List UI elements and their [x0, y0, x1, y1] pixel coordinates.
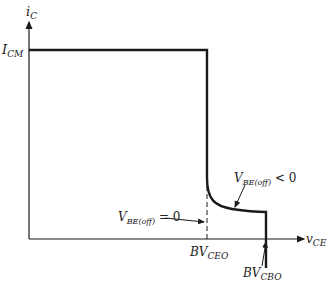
pointer-vbe-neg: [235, 185, 245, 207]
vbe-zero-label: VBE(off) = 0: [118, 210, 180, 226]
bvceo-label: BVCEO: [189, 245, 229, 261]
icm-limit-curve: [29, 50, 266, 268]
vbe-neg-label: VBE(off) < 0: [234, 171, 296, 187]
y-axis-label: iC: [26, 4, 37, 21]
icm-label: ICM: [1, 42, 24, 59]
bvcbo-label: BVCBO: [242, 266, 282, 282]
breakdown-diagram: iC ICM vCE BVCEO BVCBO VBE(off) = 0 VBE(…: [0, 0, 330, 289]
x-axis-label: vCE: [306, 232, 327, 248]
